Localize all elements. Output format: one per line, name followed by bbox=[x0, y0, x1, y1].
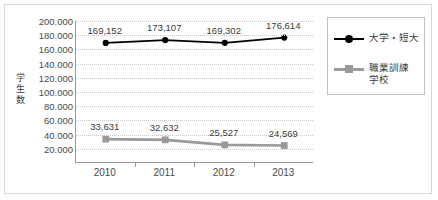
y-axis-tick-label: 140.000 bbox=[39, 58, 73, 69]
data-value-label: 169,152 bbox=[88, 25, 122, 36]
y-axis-tick-label: 160.000 bbox=[39, 44, 73, 55]
data-value-label: 173,107 bbox=[147, 22, 181, 33]
gridline bbox=[76, 78, 313, 79]
data-value-label: 25,527 bbox=[209, 127, 238, 138]
y-axis-tick-label: 80.000 bbox=[44, 101, 73, 112]
gridline bbox=[76, 92, 313, 93]
gridline bbox=[76, 64, 313, 65]
legend-item[interactable]: 大学・短大 bbox=[334, 32, 419, 45]
x-axis-tickmark bbox=[194, 163, 195, 167]
data-point-marker bbox=[162, 37, 168, 43]
square-marker-icon bbox=[334, 63, 364, 75]
y-axis-tick-label: 60.000 bbox=[44, 115, 73, 126]
data-value-label: 169,302 bbox=[207, 25, 241, 36]
x-axis-tick-labels: 2010201120122013 bbox=[75, 167, 313, 185]
data-point-marker bbox=[102, 136, 109, 143]
x-axis-tick-label: 2012 bbox=[213, 167, 235, 178]
y-axis-tick-label: 200.000 bbox=[39, 16, 73, 27]
chart-legend: 大学・短大職業訓練 学校 bbox=[327, 17, 425, 95]
data-point-marker bbox=[103, 40, 109, 46]
y-axis-tick-label: 20.000 bbox=[44, 143, 73, 154]
data-value-label: 32,632 bbox=[150, 122, 179, 133]
series-line bbox=[106, 38, 285, 43]
x-axis-tickmark bbox=[254, 163, 255, 167]
data-point-marker bbox=[221, 141, 228, 148]
gridline bbox=[76, 149, 313, 150]
legend-item-label: 大学・短大 bbox=[369, 32, 419, 44]
data-value-label: 176,614 bbox=[266, 20, 300, 31]
x-axis-tick-label: 2013 bbox=[272, 167, 294, 178]
data-value-label: 24,569 bbox=[269, 128, 298, 139]
data-point-marker bbox=[162, 136, 169, 143]
y-axis-tick-label: 100.000 bbox=[39, 87, 73, 98]
x-axis-tick-label: 2010 bbox=[94, 167, 116, 178]
data-value-label: 33,631 bbox=[90, 121, 119, 132]
y-axis-tick-label: 180.000 bbox=[39, 30, 73, 41]
data-point-marker bbox=[222, 40, 228, 46]
x-axis-tick-label: 2011 bbox=[153, 167, 175, 178]
y-axis-tick-label: 120.000 bbox=[39, 72, 73, 83]
y-axis-tick-label: 40.000 bbox=[44, 129, 73, 140]
series-line bbox=[106, 139, 285, 145]
x-axis-tickmark bbox=[135, 163, 136, 167]
y-axis-tick-labels: 200.000180.000160.000140.000120.000100.0… bbox=[25, 19, 73, 164]
plot-area bbox=[75, 21, 313, 163]
legend-item[interactable]: 職業訓練 学校 bbox=[334, 62, 409, 85]
gridline bbox=[76, 106, 313, 107]
legend-item-label: 職業訓練 学校 bbox=[369, 62, 409, 85]
circle-marker-icon bbox=[334, 33, 364, 45]
gridline bbox=[76, 49, 313, 50]
chart-frame: 学生数 200.000180.000160.000140.000120.0001… bbox=[4, 4, 432, 194]
